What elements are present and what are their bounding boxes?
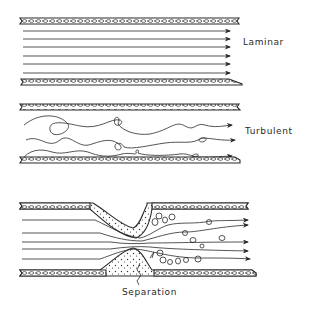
laminar-label: Laminar: [243, 37, 284, 47]
laminar-panel: [20, 18, 242, 85]
turbulent-panel: [20, 104, 240, 163]
turbulent-top-wall: [20, 104, 240, 110]
turbulent-streamlines: [22, 116, 235, 160]
turbulent-label: Turbulent: [245, 126, 293, 136]
separation-label: Separation: [122, 287, 177, 297]
turbulent-bottom-wall: [20, 157, 240, 163]
laminar-bottom-wall: [21, 79, 242, 85]
laminar-top-wall: [20, 18, 239, 24]
laminar-streamlines: [23, 31, 230, 73]
stenosis-panel: [20, 203, 256, 285]
